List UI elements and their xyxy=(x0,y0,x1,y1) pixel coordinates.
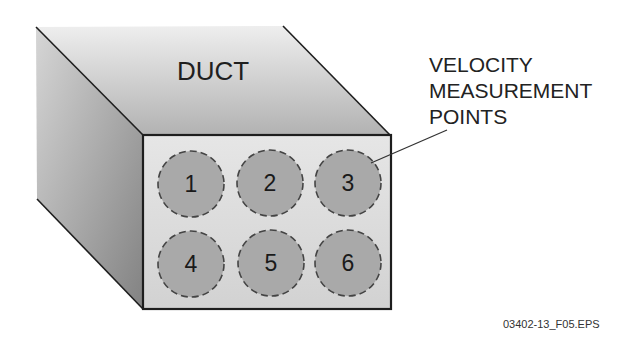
figure-id: 03402-13_F05.EPS xyxy=(503,318,600,330)
callout-line-2: MEASUREMENT xyxy=(429,78,592,104)
callout-line-1: VELOCITY xyxy=(429,52,592,78)
duct-label: DUCT xyxy=(177,56,249,87)
callout-label: VELOCITY MEASUREMENT POINTS xyxy=(429,52,592,130)
callout-line-3: POINTS xyxy=(429,104,592,130)
point-number-2: 2 xyxy=(237,150,303,216)
point-number-3: 3 xyxy=(315,150,381,216)
point-number-1: 1 xyxy=(158,151,224,217)
point-number-6: 6 xyxy=(315,230,381,296)
point-number-5: 5 xyxy=(238,230,304,296)
point-number-4: 4 xyxy=(158,231,224,297)
